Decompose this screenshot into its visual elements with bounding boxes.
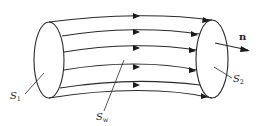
- normal-vector-arrow-icon: [240, 46, 250, 52]
- arrow-head-icon: [133, 82, 140, 88]
- cross-section-s1: [34, 22, 64, 98]
- label-s1: S1: [10, 91, 21, 103]
- flow-line-4: [60, 82, 200, 88]
- arrow-head-icon: [133, 13, 140, 19]
- flow-line-3: [64, 64, 197, 70]
- label-normal-n: n: [239, 32, 246, 42]
- flow-line-2: [64, 46, 197, 52]
- leader-sw: [104, 60, 124, 111]
- leader-s2: [214, 67, 232, 78]
- tube-bottom-edge: [49, 91, 212, 99]
- arrow-head-icon: [133, 64, 140, 70]
- tube-top-edge: [49, 16, 212, 22]
- cross-section-s2: [196, 20, 228, 98]
- label-s2: S2: [233, 74, 244, 86]
- label-sw: Sw: [96, 112, 108, 124]
- leader-s1: [25, 73, 44, 94]
- flux-tube-diagram: [0, 0, 264, 126]
- flow-line-1: [62, 30, 200, 36]
